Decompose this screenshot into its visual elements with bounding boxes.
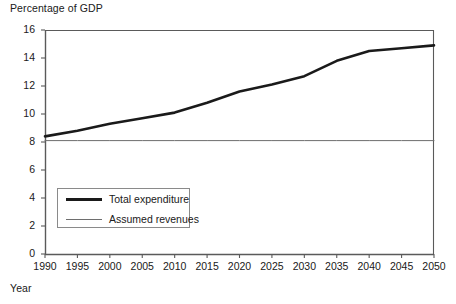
chart-legend: Total expenditure Assumed revenues (57, 188, 190, 228)
y-tick-label: 8 (9, 135, 35, 147)
legend-line-icon-assumed-revenues (66, 214, 102, 224)
y-tick-label: 0 (9, 247, 35, 259)
y-tick-label: 10 (9, 107, 35, 119)
data-series-group (45, 45, 434, 140)
y-tick-label: 6 (9, 163, 35, 175)
y-axis-ticks (41, 30, 45, 254)
legend-label: Total expenditure (109, 193, 189, 205)
y-tick-label: 16 (9, 23, 35, 35)
chart-figure: Percentage of GDP 0246810121416 19901995… (0, 0, 456, 304)
chart-plot-area (0, 0, 456, 304)
legend-label: Assumed revenues (109, 213, 199, 225)
legend-line-icon-total-expenditure (66, 194, 102, 204)
x-tick-label: 2050 (414, 260, 454, 272)
legend-item-assumed-revenues: Assumed revenues (58, 209, 189, 229)
series-line-total-expenditure (45, 45, 434, 136)
y-tick-label: 14 (9, 51, 35, 63)
y-tick-label: 4 (9, 191, 35, 203)
y-tick-label: 12 (9, 79, 35, 91)
legend-item-total-expenditure: Total expenditure (58, 189, 189, 209)
x-axis-title: Year (10, 282, 32, 294)
y-tick-label: 2 (9, 219, 35, 231)
